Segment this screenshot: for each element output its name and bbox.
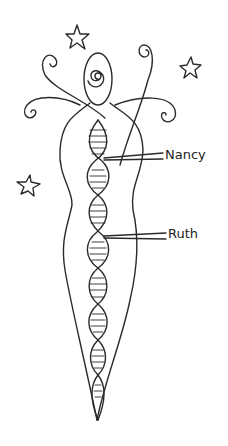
goddess-dna-drawing [0,0,228,446]
head [84,53,112,105]
dna-helix [87,120,109,420]
label-ruth: Ruth [168,227,198,240]
illustration: Nancy Ruth [0,0,228,446]
label-pointers [104,153,166,239]
star-icon [66,25,89,49]
star-icon [17,175,40,196]
body-outline [60,103,143,420]
star-icon [180,57,201,78]
label-nancy: Nancy [165,148,206,161]
